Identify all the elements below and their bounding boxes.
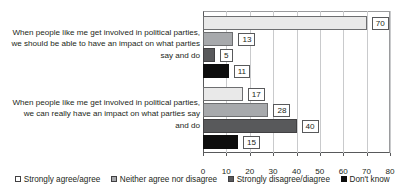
data-label-group1-series3: 15	[243, 136, 260, 149]
tickmark-10	[226, 153, 227, 156]
category-label-1: When people like me get involved in poli…	[8, 97, 200, 131]
gridline-70	[367, 11, 368, 153]
legend-label-3: Don't know	[349, 175, 389, 184]
data-label-group1-series1: 28	[273, 104, 290, 117]
chart-legend: Strongly agree/agreeNeither agree nor di…	[0, 172, 405, 186]
bar-group1-series3	[203, 135, 238, 149]
tickmark-60	[343, 153, 344, 156]
gridline-50	[320, 11, 321, 153]
legend-swatch-light-gray	[15, 176, 21, 182]
legend-label-2: Strongly disagree/diagree	[237, 175, 330, 184]
legend-swatch-black	[341, 176, 347, 182]
data-label-group0-series2: 5	[220, 49, 233, 62]
data-label-group0-series3: 11	[234, 65, 250, 78]
category-label-0: When people like me get involved in poli…	[8, 27, 200, 61]
bar-group1-series1	[203, 103, 268, 117]
legend-item-3[interactable]: Don't know	[341, 175, 390, 184]
legend-item-2[interactable]: Strongly disagree/diagree	[228, 175, 330, 184]
tickmark-70	[367, 153, 368, 156]
legend-swatch-dark-gray	[228, 176, 234, 182]
tickmark-20	[250, 153, 251, 156]
bar-group0-series3	[203, 64, 229, 78]
tickmark-0	[203, 153, 204, 156]
plot-area: 701351117284015 01020304050607080	[203, 11, 390, 153]
bar-group1-series2	[203, 119, 297, 133]
data-label-group0-series0: 70	[372, 17, 389, 30]
bar-group0-series2	[203, 48, 215, 62]
tickmark-80	[390, 153, 391, 156]
tickmark-40	[297, 153, 298, 156]
bar-chart-figure: When people like me get involved in poli…	[0, 0, 405, 188]
data-label-group1-series2: 40	[302, 120, 319, 133]
gridline-60	[343, 11, 344, 153]
data-label-group1-series0: 17	[248, 88, 265, 101]
tickmark-30	[273, 153, 274, 156]
legend-item-1[interactable]: Neither agree nor disagree	[111, 175, 217, 184]
bar-group0-series1	[203, 32, 233, 46]
legend-item-0[interactable]: Strongly agree/agree	[15, 175, 100, 184]
bar-group0-series0	[203, 16, 367, 30]
legend-label-1: Neither agree nor disagree	[120, 175, 217, 184]
gridline-80	[390, 11, 391, 153]
legend-label-0: Strongly agree/agree	[24, 175, 100, 184]
legend-swatch-medium-gray	[111, 176, 117, 182]
tickmark-50	[320, 153, 321, 156]
bar-group1-series0	[203, 87, 243, 101]
gridline-40	[297, 11, 298, 153]
data-label-group0-series1: 13	[238, 33, 255, 46]
